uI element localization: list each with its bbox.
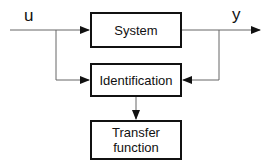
system-block-label: System [114,23,157,38]
identification-block-label: Identification [100,73,173,88]
transfer-function-block-label: Transfer function [106,125,166,155]
identification-block: Identification [90,63,182,97]
transfer-function-block: Transfer function [90,120,182,160]
system-block: System [90,12,182,48]
output-signal-label: y [232,5,241,25]
input-signal-label: u [24,6,33,26]
